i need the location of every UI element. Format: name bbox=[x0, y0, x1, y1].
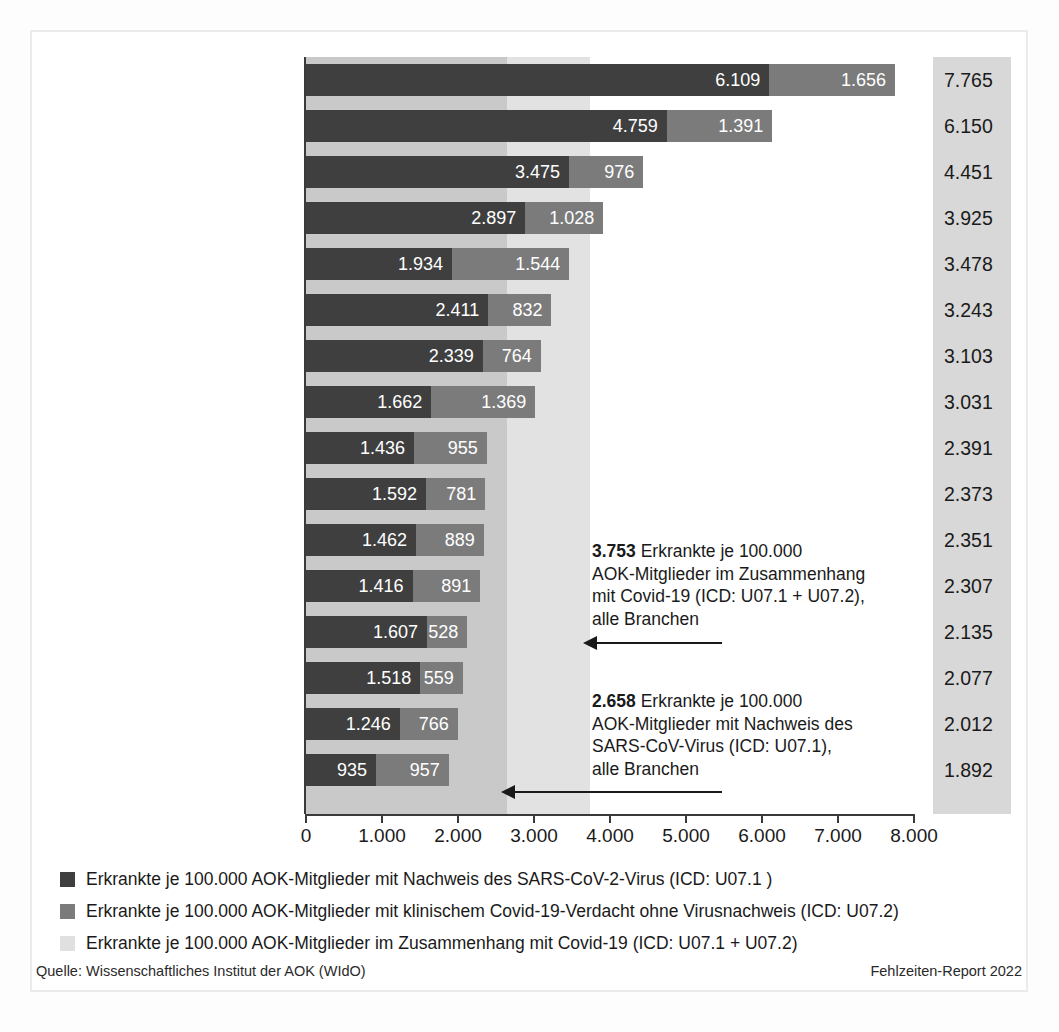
total-value: 2.373 bbox=[933, 471, 1011, 517]
stacked-bar[interactable]: 4.7591.391 bbox=[305, 110, 772, 142]
bar-row: Sachsen6.1091.656 bbox=[305, 57, 913, 103]
x-tick-label: 4.000 bbox=[586, 825, 634, 847]
bar-segment-u071[interactable]: 3.475 bbox=[305, 156, 569, 188]
bar-segment-u071[interactable]: 2.411 bbox=[305, 294, 488, 326]
annotation-3753-line2: AOK-Mitglieder im Zusammenhang bbox=[592, 563, 922, 586]
bar-row: Hessen1.9341.544 bbox=[305, 241, 913, 287]
stacked-bar[interactable]: 2.411832 bbox=[305, 294, 551, 326]
x-tick-label: 3.000 bbox=[510, 825, 558, 847]
stacked-bar[interactable]: 2.339764 bbox=[305, 340, 541, 372]
bar-segment-u071[interactable]: 1.662 bbox=[305, 386, 431, 418]
annotation-2658-value: 2.658 bbox=[592, 691, 636, 711]
bar-segment-u071[interactable]: 4.759 bbox=[305, 110, 667, 142]
bar-segment-u071[interactable]: 1.416 bbox=[305, 570, 413, 602]
stacked-bar[interactable]: 1.9341.544 bbox=[305, 248, 569, 280]
x-tick-label: 6.000 bbox=[738, 825, 786, 847]
bar-segment-u072[interactable]: 891 bbox=[413, 570, 481, 602]
bar-segment-u072[interactable]: 528 bbox=[427, 616, 467, 648]
bar-segment-u072[interactable]: 764 bbox=[483, 340, 541, 372]
total-value: 3.478 bbox=[933, 241, 1011, 287]
bar-segment-u072[interactable]: 559 bbox=[420, 662, 462, 694]
x-tick bbox=[609, 814, 611, 823]
bar-segment-u072[interactable]: 1.391 bbox=[667, 110, 773, 142]
stacked-bar[interactable]: 1.416891 bbox=[305, 570, 480, 602]
total-value: 3.243 bbox=[933, 287, 1011, 333]
chart-page: Sachsen6.1091.656Thüringen4.7591.391Baye… bbox=[0, 0, 1059, 1032]
bar-segment-u072[interactable]: 1.028 bbox=[525, 202, 603, 234]
bar-row: Thüringen4.7591.391 bbox=[305, 103, 913, 149]
bar-segment-u072[interactable]: 1.544 bbox=[452, 248, 569, 280]
stacked-bar[interactable]: 2.8971.028 bbox=[305, 202, 603, 234]
stacked-bar[interactable]: 1.6621.369 bbox=[305, 386, 535, 418]
bar-segment-u071[interactable]: 1.462 bbox=[305, 524, 416, 556]
stacked-bar[interactable]: 3.475976 bbox=[305, 156, 643, 188]
chart-legend: Erkrankte je 100.000 AOK-Mitglieder mit … bbox=[60, 863, 1000, 959]
bar-row: Baden-Württemberg2.8971.028 bbox=[305, 195, 913, 241]
stacked-bar[interactable]: 1.246766 bbox=[305, 708, 458, 740]
stacked-bar[interactable]: 935957 bbox=[305, 754, 449, 786]
total-value: 2.077 bbox=[933, 655, 1011, 701]
stacked-bar[interactable]: 6.1091.656 bbox=[305, 64, 895, 96]
total-value: 3.031 bbox=[933, 379, 1011, 425]
x-tick bbox=[533, 814, 535, 823]
bar-row: Bayern3.475976 bbox=[305, 149, 913, 195]
x-tick-label: 2.000 bbox=[434, 825, 482, 847]
x-tick bbox=[305, 814, 307, 823]
bar-segment-u071[interactable]: 935 bbox=[305, 754, 376, 786]
total-value: 4.451 bbox=[933, 149, 1011, 195]
y-axis-line bbox=[304, 57, 306, 814]
x-tick-label: 8.000 bbox=[890, 825, 938, 847]
stacked-bar[interactable]: 1.436955 bbox=[305, 432, 487, 464]
footer-report: Fehlzeiten-Report 2022 bbox=[870, 963, 1022, 979]
bar-segment-u071[interactable]: 1.607 bbox=[305, 616, 427, 648]
bar-segment-u072[interactable]: 832 bbox=[488, 294, 551, 326]
stacked-bar[interactable]: 1.607528 bbox=[305, 616, 467, 648]
legend-label: Erkrankte je 100.000 AOK-Mitglieder mit … bbox=[86, 869, 772, 890]
annotation-3753-line3: mit Covid-19 (ICD: U07.1 + U07.2), bbox=[592, 585, 922, 608]
bar-segment-u071[interactable]: 1.246 bbox=[305, 708, 400, 740]
annotation-2658-arrow-head bbox=[501, 785, 515, 799]
bar-segment-u072[interactable]: 955 bbox=[414, 432, 487, 464]
total-value: 6.150 bbox=[933, 103, 1011, 149]
bar-segment-u072[interactable]: 781 bbox=[426, 478, 485, 510]
annotation-3753-value: 3.753 bbox=[592, 541, 636, 561]
stacked-bar[interactable]: 1.592781 bbox=[305, 478, 485, 510]
stacked-bar[interactable]: 1.518559 bbox=[305, 662, 463, 694]
x-tick-label: 0 bbox=[301, 825, 312, 847]
annotation-2658-line1: Erkrankte je 100.000 bbox=[636, 691, 802, 711]
bar-segment-u071[interactable]: 6.109 bbox=[305, 64, 769, 96]
annotation-2658-arrow-line bbox=[514, 791, 722, 793]
bar-segment-u072[interactable]: 957 bbox=[376, 754, 449, 786]
bar-segment-u071[interactable]: 2.897 bbox=[305, 202, 525, 234]
total-value: 2.135 bbox=[933, 609, 1011, 655]
bar-segment-u072[interactable]: 766 bbox=[400, 708, 458, 740]
annotation-2658-line4: alle Branchen bbox=[592, 758, 922, 781]
total-value: 3.925 bbox=[933, 195, 1011, 241]
annotation-3753-line4: alle Branchen bbox=[592, 608, 922, 631]
legend-item: Erkrankte je 100.000 AOK-Mitglieder mit … bbox=[60, 863, 1000, 895]
total-value: 2.351 bbox=[933, 517, 1011, 563]
total-value: 2.391 bbox=[933, 425, 1011, 471]
bar-segment-u071[interactable]: 2.339 bbox=[305, 340, 483, 372]
annotation-2658: 2.658 Erkrankte je 100.000 AOK-Mitgliede… bbox=[592, 690, 922, 780]
bar-segment-u072[interactable]: 889 bbox=[416, 524, 484, 556]
bar-row: Niedersachsen1.6621.369 bbox=[305, 379, 913, 425]
bar-segment-u072[interactable]: 1.656 bbox=[769, 64, 895, 96]
chart-footer: Quelle: Wissenschaftliches Institut der … bbox=[36, 963, 1022, 979]
bar-segment-u071[interactable]: 1.436 bbox=[305, 432, 414, 464]
bar-segment-u071[interactable]: 1.934 bbox=[305, 248, 452, 280]
annotation-3753-arrow-line bbox=[596, 642, 722, 644]
legend-swatch-icon bbox=[60, 936, 75, 951]
x-tick bbox=[837, 814, 839, 823]
footer-source: Quelle: Wissenschaftliches Institut der … bbox=[36, 963, 366, 979]
annotation-3753: 3.753 Erkrankte je 100.000 AOK-Mitgliede… bbox=[592, 540, 922, 630]
legend-swatch-icon bbox=[60, 872, 75, 887]
bar-segment-u072[interactable]: 976 bbox=[569, 156, 643, 188]
stacked-bar[interactable]: 1.462889 bbox=[305, 524, 484, 556]
x-tick-label: 7.000 bbox=[814, 825, 862, 847]
bar-segment-u072[interactable]: 1.369 bbox=[431, 386, 535, 418]
bar-segment-u071[interactable]: 1.592 bbox=[305, 478, 426, 510]
bar-row: Nordrhein-Westfalen1.436955 bbox=[305, 425, 913, 471]
x-tick bbox=[685, 814, 687, 823]
bar-segment-u071[interactable]: 1.518 bbox=[305, 662, 420, 694]
